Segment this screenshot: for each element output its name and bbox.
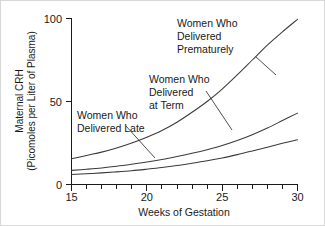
x-axis-minor-ticks (87, 185, 283, 190)
x-axis-title: Weeks of Gestation (138, 206, 230, 218)
y-tick-label-100: 100 (44, 13, 62, 25)
x-axis-tick-labels: 15 20 25 30 (65, 191, 303, 203)
x-tick-label-30: 30 (291, 191, 303, 203)
annotation-at-term-line1: Women Who (149, 73, 210, 85)
leader-line-premature (256, 57, 276, 75)
y-axis-ticks (66, 19, 72, 185)
annotation-at-term-line3: at Term (149, 99, 184, 111)
annotation-late: Women Who Delivered Late (77, 109, 145, 134)
y-axis-title-line2: (Picomoles per Liter of Plasma) (26, 31, 37, 171)
leader-line-at-term (206, 91, 232, 130)
annotation-premature-line3: Prematurely (177, 43, 234, 55)
annotation-premature-line1: Women Who (177, 17, 238, 29)
chart-figure: 100 50 0 15 20 (0, 0, 325, 226)
annotation-late-line1: Women Who (77, 109, 138, 121)
x-tick-label-20: 20 (141, 191, 153, 203)
curve-late (72, 140, 298, 175)
annotation-at-term: Women Who Delivered at Term (149, 73, 210, 111)
annotation-premature-line2: Delivered (177, 30, 222, 42)
y-tick-label-0: 0 (56, 179, 62, 191)
y-tick-label-50: 50 (50, 96, 62, 108)
x-axis-major-ticks (72, 185, 298, 191)
annotation-at-term-line2: Delivered (149, 86, 194, 98)
y-axis-title-line1: Maternal CRH (14, 69, 25, 132)
y-axis-tick-labels: 100 50 0 (44, 13, 62, 191)
x-tick-label-25: 25 (216, 191, 228, 203)
annotation-premature: Women Who Delivered Prematurely (177, 17, 238, 55)
annotation-late-line2: Delivered Late (77, 122, 145, 134)
x-tick-label-15: 15 (65, 191, 77, 203)
chart-plot-area: 100 50 0 15 20 (1, 1, 325, 226)
